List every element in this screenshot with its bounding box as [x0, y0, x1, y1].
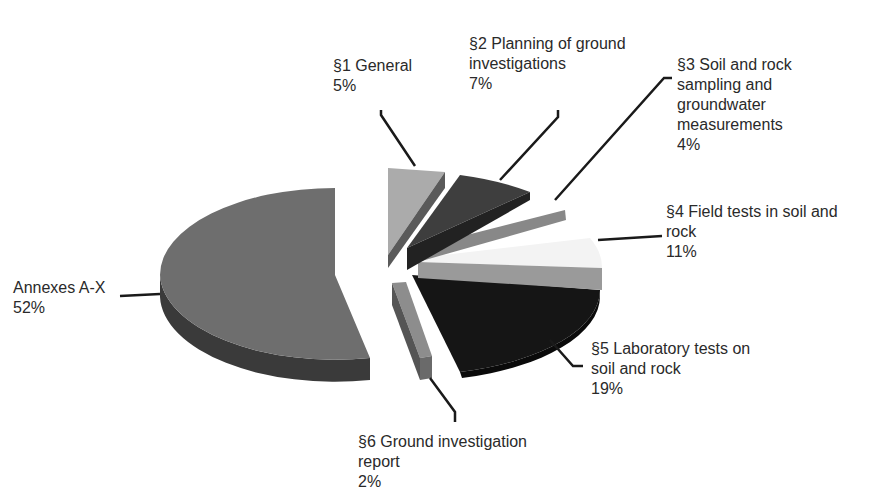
label-s3: §3 Soil and rock sampling and groundwate… [677, 55, 792, 155]
slice-annexes [160, 188, 370, 382]
label-s1: §1 General 5% [333, 56, 412, 96]
label-s2: §2 Planning of ground investigations 7% [469, 34, 626, 94]
label-annexes: Annexes A-X 52% [13, 278, 106, 318]
label-s4: §4 Field tests in soil and rock 11% [666, 202, 838, 262]
label-s6: §6 Ground investigation report 2% [358, 432, 527, 492]
label-s5: §5 Laboratory tests on soil and rock 19% [591, 339, 750, 399]
slice-s5 [412, 275, 600, 378]
